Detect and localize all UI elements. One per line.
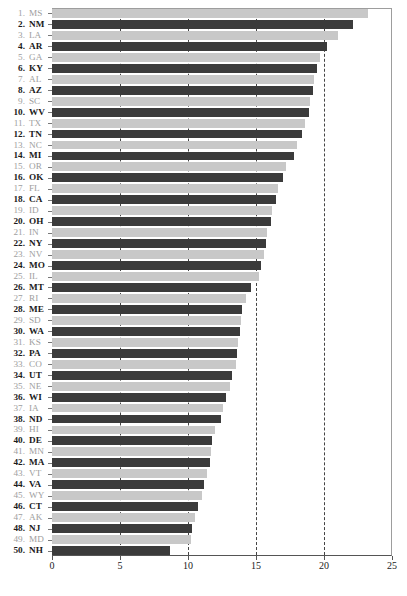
- bar-row-state-abbr: OK: [29, 172, 48, 183]
- bar-row: 18.CA: [0, 194, 407, 205]
- bar: [52, 64, 317, 73]
- x-axis-tick-label-15: 15: [241, 560, 271, 571]
- bar-row-rank: 33.: [14, 359, 25, 370]
- bar: [52, 130, 302, 139]
- bar: [52, 524, 192, 533]
- bar-row-rank: 19.: [14, 205, 25, 216]
- bar-rows-container: 1.MS2.NM3.LA4.AR5.GA6.KY7.AL8.AZ9.SC10.W…: [0, 8, 407, 556]
- bar-row-state-abbr: VA: [29, 479, 48, 490]
- bar-row: 13.NC: [0, 140, 407, 151]
- bar: [52, 480, 204, 489]
- bar-row-label: 15.OR: [0, 161, 48, 172]
- bar-row-state-abbr: AK: [29, 512, 48, 523]
- bar: [52, 294, 246, 303]
- bar-row-rank: 30.: [14, 326, 25, 337]
- bar-row-state-abbr: GA: [29, 52, 48, 63]
- bar-row-rank: 1.: [18, 8, 25, 19]
- bar: [52, 458, 210, 467]
- bar-row-rank: 13.: [14, 140, 25, 151]
- bar-row: 43.VT: [0, 468, 407, 479]
- bar-row-label: 22.NY: [0, 238, 48, 249]
- chart-title: [0, 0, 407, 1]
- bar-row-state-abbr: OH: [29, 216, 48, 227]
- bar-row-state-abbr: RI: [29, 293, 48, 304]
- bar-row: 39.HI: [0, 424, 407, 435]
- bar: [52, 97, 310, 106]
- bar-row: 8.AZ: [0, 85, 407, 96]
- bar: [52, 283, 251, 292]
- bar-row-label: 30.WA: [0, 326, 48, 337]
- bar-row: 9.SC: [0, 96, 407, 107]
- bar: [52, 447, 211, 456]
- bar: [52, 316, 241, 325]
- bar-row-label: 12.TN: [0, 129, 48, 140]
- bar-row: 5.GA: [0, 52, 407, 63]
- bar-row-state-abbr: AR: [29, 41, 48, 52]
- bar-row-rank: 48.: [14, 523, 25, 534]
- bar-row: 27.RI: [0, 293, 407, 304]
- bar-row-state-abbr: CT: [29, 501, 48, 512]
- bar-row-state-abbr: DE: [29, 435, 48, 446]
- bar-row-label: 2.NM: [0, 19, 48, 30]
- bar-row-state-abbr: WI: [29, 392, 48, 403]
- bar-row-rank: 46.: [14, 501, 25, 512]
- bar-row-rank: 34.: [14, 370, 25, 381]
- bar-row-state-abbr: MI: [29, 150, 48, 161]
- bar-row-rank: 3.: [18, 30, 25, 41]
- bar-row-rank: 23.: [14, 249, 25, 260]
- bar: [52, 108, 309, 117]
- bar-row-rank: 18.: [14, 194, 25, 205]
- bar-row-state-abbr: TN: [29, 129, 48, 140]
- bar-row-rank: 22.: [14, 238, 25, 249]
- bar: [52, 119, 305, 128]
- bar: [52, 415, 221, 424]
- bar-row-label: 41.MN: [0, 446, 48, 457]
- bar-row: 22.NY: [0, 238, 407, 249]
- bar-row: 11.TX: [0, 118, 407, 129]
- x-axis-tick-label-25: 25: [377, 560, 407, 571]
- bar-row: 2.NM: [0, 19, 407, 30]
- bar-row-label: 10.WV: [0, 107, 48, 118]
- bar-row-label: 23.NV: [0, 249, 48, 260]
- bar-row-state-abbr: PA: [29, 348, 48, 359]
- bar-row: 23.NV: [0, 249, 407, 260]
- bar-row-rank: 41.: [14, 446, 25, 457]
- bar-row-label: 31.KS: [0, 337, 48, 348]
- bar: [52, 162, 286, 171]
- bar-row: 10.WV: [0, 107, 407, 118]
- bar-row-rank: 32.: [14, 348, 25, 359]
- bar-row-label: 50.NH: [0, 545, 48, 556]
- bar-row-rank: 47.: [14, 512, 25, 523]
- bar-row-rank: 37.: [14, 403, 25, 414]
- bar-row-state-abbr: OR: [29, 161, 48, 172]
- bar-row-label: 13.NC: [0, 140, 48, 151]
- bar-row-rank: 28.: [14, 304, 25, 315]
- bar-row-rank: 11.: [14, 118, 25, 129]
- bar: [52, 327, 240, 336]
- bar-row-rank: 26.: [14, 282, 25, 293]
- bar: [52, 404, 223, 413]
- bar-row: 34.UT: [0, 370, 407, 381]
- bar-row-label: 40.DE: [0, 435, 48, 446]
- bar-row: 7.AL: [0, 74, 407, 85]
- bar-row-label: 25.IL: [0, 271, 48, 282]
- bar-row-label: 4.AR: [0, 41, 48, 52]
- bar-row-rank: 9.: [18, 96, 25, 107]
- bar-row-label: 28.ME: [0, 304, 48, 315]
- bar-row-rank: 43.: [14, 468, 25, 479]
- bar-row: 45.WY: [0, 490, 407, 501]
- bar-row: 12.TN: [0, 129, 407, 140]
- bar-row: 4.AR: [0, 41, 407, 52]
- bar: [52, 42, 327, 51]
- bar-row: 17.FL: [0, 183, 407, 194]
- bar-row-state-abbr: MS: [29, 8, 48, 19]
- bar: [52, 239, 266, 248]
- bar-row-label: 46.CT: [0, 501, 48, 512]
- bar: [52, 31, 338, 40]
- bar-row-label: 34.UT: [0, 370, 48, 381]
- bar-row-label: 9.SC: [0, 96, 48, 107]
- bar-row-rank: 38.: [14, 414, 25, 425]
- bar-row: 49.MD: [0, 534, 407, 545]
- bar: [52, 9, 368, 18]
- bar: [52, 250, 264, 259]
